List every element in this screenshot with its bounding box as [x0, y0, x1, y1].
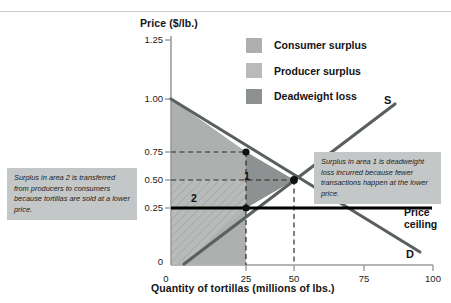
marker-supply-at-ceiling: [242, 204, 249, 211]
y-tick-label-125: 1.25: [133, 34, 163, 45]
annotation-note-right: Surplus in area 1 is deadweight loss inc…: [314, 152, 441, 204]
legend-swatch-deadweight-loss: [246, 89, 262, 104]
y-tick-label-050: 0.50: [133, 174, 163, 185]
y-axis-title: Price ($/lb.): [140, 17, 198, 29]
price-ceiling-label-line1: Price: [404, 206, 450, 218]
region-label-two: 2: [191, 192, 197, 204]
price-ceiling-label: Price ceiling: [404, 206, 450, 231]
legend-swatch-consumer-surplus: [246, 38, 262, 53]
legend-label-producer-surplus: Producer surplus: [274, 65, 361, 77]
y-tick-label-075: 0.75: [133, 146, 163, 157]
x-tick-label-25: 25: [236, 273, 256, 284]
legend-item-deadweight-loss: Deadweight loss: [246, 87, 367, 105]
demand-curve-label: D: [406, 248, 414, 260]
legend-label-consumer-surplus: Consumer surplus: [274, 39, 367, 51]
supply-curve-label: S: [384, 94, 391, 106]
region-label-one: 1: [244, 170, 250, 182]
marker-equilibrium: [290, 176, 298, 184]
chart-legend: Consumer surplus Producer surplus Deadwe…: [246, 36, 367, 113]
y-tick-label-025: 0.25: [133, 202, 163, 213]
region-deadweight-loss-upper: [246, 152, 294, 180]
y-tick-label-0: 0: [133, 256, 163, 267]
region-consumer-surplus-lower: [171, 152, 246, 180]
marker-demand-at-q25: [242, 148, 249, 155]
annotation-note-left: Surplus in area 2 is transferred from pr…: [7, 168, 137, 220]
x-tick-label-100: 100: [421, 273, 445, 284]
x-tick-label-50: 50: [284, 273, 304, 284]
legend-item-consumer-surplus: Consumer surplus: [246, 36, 367, 54]
y-tick-label-100: 1.00: [133, 93, 163, 104]
x-tick-label-0: 0: [156, 273, 176, 284]
x-tick-label-75: 75: [354, 273, 374, 284]
legend-swatch-producer-surplus: [246, 63, 262, 78]
chart-figure: Price ($/lb.) Quantity of tortillas (mil…: [0, 0, 451, 303]
price-ceiling-label-line2: ceiling: [404, 218, 450, 230]
legend-label-deadweight-loss: Deadweight loss: [274, 90, 357, 102]
legend-item-producer-surplus: Producer surplus: [246, 62, 367, 80]
